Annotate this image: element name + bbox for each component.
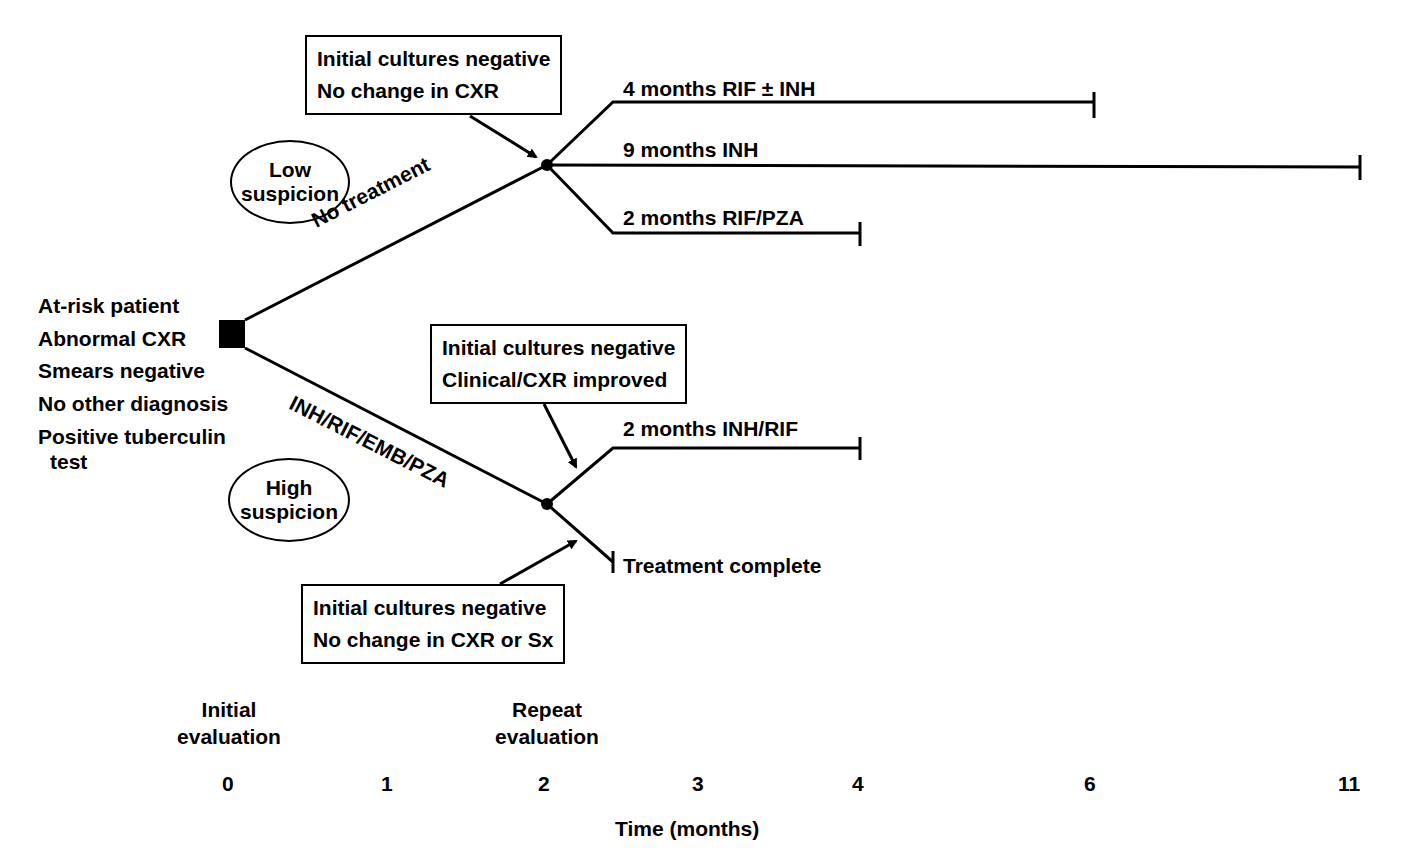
timeline-initial-evaluation: Initial evaluation	[170, 696, 288, 750]
outcome-rif-pza: 2 months RIF/PZA	[623, 207, 804, 228]
oval-text: Low	[269, 158, 311, 182]
box-top-condition: Initial cultures negative No change in C…	[305, 35, 562, 115]
tick-4: 4	[852, 773, 864, 794]
patient-line: test	[50, 451, 87, 472]
box-text: No change in CXR	[317, 75, 550, 107]
tick-3: 3	[692, 773, 704, 794]
box-bottom-condition: Initial cultures negative No change in C…	[301, 584, 565, 664]
tick-11: 11	[1338, 773, 1360, 794]
high-suspicion-oval: High suspicion	[228, 458, 350, 542]
node-low	[541, 159, 553, 171]
tick-6: 6	[1084, 773, 1096, 794]
tick-2: 2	[538, 773, 550, 794]
decision-node-square	[219, 320, 245, 348]
patient-line: At-risk patient	[38, 295, 179, 316]
timeline-repeat-evaluation: Repeat evaluation	[488, 696, 606, 750]
line-inh-rif	[547, 448, 860, 504]
line-inh9	[547, 165, 1360, 167]
oval-text: High	[266, 476, 313, 500]
outcome-rif-inh: 4 months RIF ± INH	[623, 78, 815, 99]
oval-text: suspicion	[240, 500, 338, 524]
timeline-text: evaluation	[170, 723, 288, 750]
patient-line: Positive tuberculin	[38, 426, 226, 447]
outcome-inh9: 9 months INH	[623, 139, 758, 160]
patient-line: No other diagnosis	[38, 393, 228, 414]
outcome-complete: Treatment complete	[623, 555, 821, 576]
node-high	[541, 498, 553, 510]
box-text: Clinical/CXR improved	[442, 364, 675, 396]
outcome-inh-rif: 2 months INH/RIF	[623, 418, 798, 439]
box-text: Initial cultures negative	[313, 592, 553, 624]
timeline-text: evaluation	[488, 723, 606, 750]
timeline-text: Repeat	[488, 696, 606, 723]
patient-line: Abnormal CXR	[38, 328, 186, 349]
tick-0: 0	[222, 773, 234, 794]
box-middle-condition: Initial cultures negative Clinical/CXR i…	[430, 324, 687, 404]
box-text: Initial cultures negative	[317, 43, 550, 75]
tick-1: 1	[381, 773, 393, 794]
box-text: No change in CXR or Sx	[313, 624, 553, 656]
timeline-text: Initial	[170, 696, 288, 723]
box-text: Initial cultures negative	[442, 332, 675, 364]
axis-label: Time (months)	[615, 818, 759, 839]
patient-line: Smears negative	[38, 360, 205, 381]
